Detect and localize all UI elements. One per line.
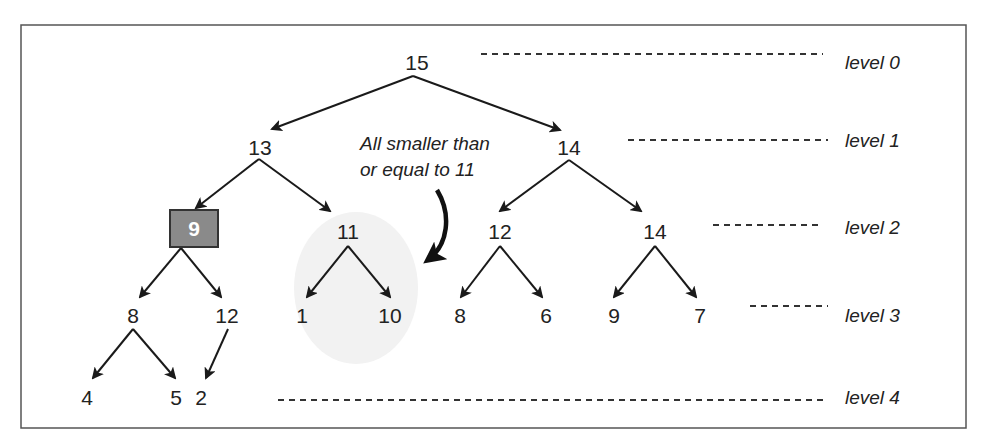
node-label: 6 (540, 304, 552, 327)
node-label: 14 (643, 220, 667, 243)
edge-arrow-icon (259, 159, 330, 211)
node-label: 14 (557, 136, 581, 159)
tree-node: 2 (195, 386, 207, 409)
node-label: 13 (248, 136, 271, 159)
edge-arrow-icon (614, 246, 655, 297)
annotation-line-1: All smaller than (359, 133, 490, 154)
node-label: 10 (378, 304, 401, 327)
diagram-canvas: 15131491112148121108697452 level 0level … (0, 0, 985, 442)
node-label: 8 (127, 304, 139, 327)
node-label: 5 (170, 386, 182, 409)
edge-arrow-icon (569, 160, 641, 211)
edge-arrow-icon (500, 160, 569, 211)
tree-node: 9 (170, 210, 218, 247)
edge-arrow-icon (655, 246, 696, 297)
tree-node: 14 (557, 136, 581, 159)
node-label: 1 (296, 304, 308, 327)
tree-node: 15 (405, 51, 428, 74)
annotation-line-2: or equal to 11 (360, 159, 475, 180)
tree-node: 10 (378, 304, 401, 327)
node-label: 12 (215, 304, 238, 327)
edge-arrow-icon (133, 329, 175, 378)
node-label: 12 (488, 220, 511, 243)
node-label: 11 (337, 220, 359, 243)
edge-arrow-icon (206, 329, 228, 378)
tree-node: 13 (248, 136, 271, 159)
node-label: 4 (81, 386, 93, 409)
heap-diagram: 15131491112148121108697452 level 0level … (0, 0, 985, 442)
level-label: level 2 (845, 217, 900, 238)
level-label: level 1 (845, 130, 900, 151)
node-label: 15 (405, 51, 428, 74)
tree-node: 1 (296, 304, 308, 327)
edge-arrow-icon (461, 246, 500, 297)
highlighted-node-label: 9 (188, 217, 200, 240)
tree-node: 6 (540, 304, 552, 327)
edge-arrow-icon (196, 159, 259, 208)
tree-node: 14 (643, 220, 667, 243)
level-label: level 3 (845, 305, 900, 326)
node-label: 9 (608, 304, 620, 327)
tree-node: 7 (694, 304, 706, 327)
tree-node: 8 (454, 304, 466, 327)
tree-node: 12 (488, 220, 511, 243)
level-label: level 4 (845, 387, 900, 408)
tree-node: 12 (215, 304, 238, 327)
node-label: 2 (195, 386, 207, 409)
level-labels: level 0level 1level 2level 3level 4 (845, 52, 900, 408)
node-label: 7 (694, 304, 706, 327)
edge-arrow-icon (181, 248, 221, 297)
edge-arrow-icon (140, 248, 181, 297)
curved-arrow-icon (428, 190, 446, 260)
edge-arrow-icon (413, 76, 560, 130)
tree-node: 5 (170, 386, 182, 409)
tree-node: 9 (608, 304, 620, 327)
level-label: level 0 (845, 52, 900, 73)
edge-arrow-icon (500, 246, 542, 297)
tree-node: 8 (127, 304, 139, 327)
tree-node: 11 (337, 220, 359, 243)
edge-arrow-icon (272, 76, 413, 129)
edge-arrow-icon (93, 329, 133, 378)
node-label: 8 (454, 304, 466, 327)
tree-node: 4 (81, 386, 93, 409)
